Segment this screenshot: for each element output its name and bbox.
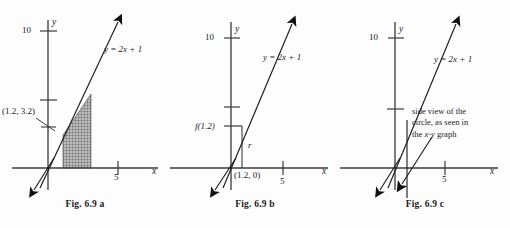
x-point-label: (1.2, 0) [234, 170, 260, 181]
line-equation-label: y = 2x + 1 [434, 54, 472, 65]
y-axis-label: y [235, 24, 239, 36]
line-lower-arrow [215, 158, 236, 190]
point-label: (1.2, 3.2) [2, 106, 35, 117]
y-value-label: f(1.2) [195, 121, 215, 132]
x-axis-label: x [322, 166, 326, 178]
annotation-line-3-italic: x-y [425, 129, 435, 139]
y-axis-label: y [399, 24, 403, 36]
figure-panel-b: 10 y 5 x y = 2x + 1 f(1.2) r (1.2, 0) Fi… [170, 0, 340, 228]
annotation-line-3-post: graph [435, 129, 456, 139]
y-tick-label-10: 10 [369, 32, 378, 43]
segment-label-r: r [248, 140, 252, 151]
line-equation-label: y = 2x + 1 [263, 52, 301, 63]
annotation-line-3-pre: the [412, 129, 425, 139]
x-tick-label-5: 5 [114, 172, 119, 183]
y-tick-label-10: 10 [22, 25, 31, 36]
line-equation-label: y = 2x + 1 [104, 44, 142, 55]
figure-caption-b: Fig. 6.9 b [170, 199, 340, 209]
point-leader-line [36, 118, 55, 131]
figure-panel-a: 10 y 5 x y = 2x + 1 (1.2, 3.2) Fig. 6.9 … [0, 0, 170, 228]
y-tick-label-10: 10 [205, 32, 214, 43]
line-lower-arrow [380, 158, 400, 190]
figure-page: 10 y 5 x y = 2x + 1 (1.2, 3.2) Fig. 6.9 … [0, 0, 510, 228]
x-tick-label-5: 5 [280, 176, 285, 187]
annotation-line-1: side view of the [412, 106, 468, 117]
x-axis-label: x [152, 166, 156, 178]
x-tick-label-5: 5 [442, 174, 447, 185]
x-axis-label: x [490, 166, 494, 178]
figure-panel-c: 10 y 5 x y = 2x + 1 side view of the cir… [340, 0, 510, 228]
line-y-equals-2x-plus-1 [223, 24, 292, 188]
annotation-line-3: the x-y graph [412, 129, 468, 140]
figure-caption-a: Fig. 6.9 a [0, 199, 170, 209]
figure-caption-c: Fig. 6.9 c [340, 199, 510, 209]
annotation-line-2: circle, as seen in [412, 117, 468, 128]
line-lower-arrow [34, 158, 54, 190]
graph-c [340, 0, 510, 200]
y-axis-label: y [52, 17, 56, 29]
circle-side-view-annotation: side view of the circle, as seen in the … [412, 106, 468, 140]
